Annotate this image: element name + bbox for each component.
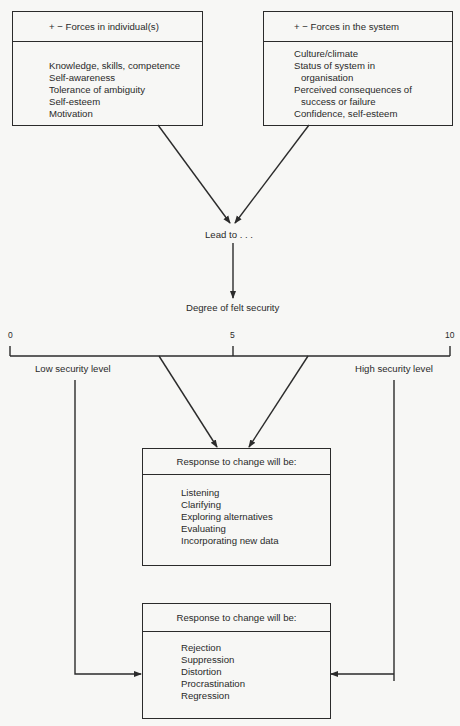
forces-system-header: + − Forces in the system: [264, 12, 452, 42]
forces-individual-list: Knowledge, skills, competence Self-aware…: [13, 42, 202, 120]
arrow-individual-to-lead: [158, 125, 230, 223]
list-item: Culture/climate: [294, 48, 452, 60]
forces-system-list: Culture/climate Status of system in orga…: [264, 42, 452, 120]
felt-security-label: Degree of felt security: [186, 302, 279, 313]
list-item: Listening: [181, 487, 330, 499]
response-negative-title: Response to change will be:: [177, 612, 297, 623]
response-negative-list: Rejection Suppression Distortion Procras…: [143, 632, 330, 702]
forces-individual-header: + − Forces in individual(s): [13, 12, 202, 42]
response-positive-header: Response to change will be:: [143, 449, 330, 475]
list-item: Clarifying: [181, 499, 330, 511]
response-negative-box: Response to change will be: Rejection Su…: [142, 603, 331, 719]
response-negative-header: Response to change will be:: [143, 604, 330, 632]
list-item: Self-awareness: [49, 72, 202, 84]
scale-tick-label-5: 5: [230, 330, 235, 340]
arrow-mid-right-to-positive: [249, 356, 308, 447]
response-positive-box: Response to change will be: Listening Cl…: [142, 448, 331, 566]
list-item: Distortion: [181, 666, 330, 678]
list-item: Evaluating: [181, 523, 330, 535]
list-item: Regression: [181, 690, 330, 702]
list-item: Exploring alternatives: [181, 511, 330, 523]
arrow-high-to-negative: [331, 380, 394, 681]
list-item: organisation: [294, 72, 452, 84]
list-item: Tolerance of ambiguity: [49, 84, 202, 96]
list-item: Perceived consequences of: [294, 84, 452, 96]
response-positive-list: Listening Clarifying Exploring alternati…: [143, 475, 330, 547]
list-item: Knowledge, skills, competence: [49, 60, 202, 72]
arrow-system-to-lead: [235, 125, 309, 223]
arrow-mid-left-to-positive: [159, 356, 217, 447]
response-positive-title: Response to change will be:: [177, 456, 297, 467]
forces-individual-box: + − Forces in individual(s) Knowledge, s…: [12, 11, 203, 126]
list-item: Motivation: [49, 108, 202, 120]
list-item: Confidence, self-esteem: [294, 108, 452, 120]
list-item: Self-esteem: [49, 96, 202, 108]
low-security-label: Low security level: [35, 363, 111, 374]
list-item: Suppression: [181, 654, 330, 666]
list-item: Incorporating new data: [181, 535, 330, 547]
arrow-low-to-negative: [75, 380, 141, 674]
forces-individual-title: + − Forces in individual(s): [49, 21, 159, 32]
list-item: Procrastination: [181, 678, 330, 690]
forces-system-title: + − Forces in the system: [294, 21, 399, 32]
lead-to-label: Lead to . . .: [205, 229, 253, 240]
high-security-label: High security level: [355, 363, 433, 374]
list-item: success or failure: [294, 96, 452, 108]
list-item: Rejection: [181, 642, 330, 654]
scale-tick-label-0: 0: [8, 330, 13, 340]
list-item: Status of system in: [294, 60, 452, 72]
forces-system-box: + − Forces in the system Culture/climate…: [263, 11, 453, 126]
scale-tick-label-10: 10: [445, 330, 454, 340]
